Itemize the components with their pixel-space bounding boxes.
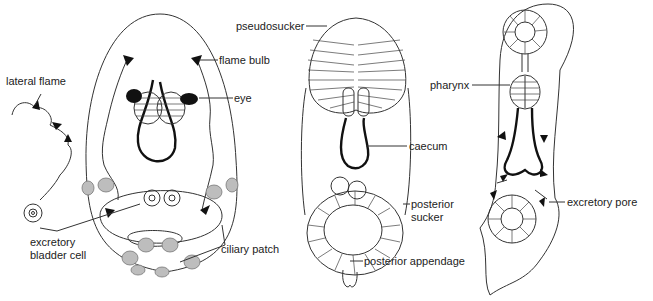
label-posterior-appendage: posterior appendage	[364, 255, 465, 267]
label-excretory-pore: excretory pore	[567, 196, 637, 208]
label-eye: eye	[234, 92, 252, 104]
label-posterior-sucker-1: posterior	[411, 198, 454, 210]
eye-left	[126, 89, 142, 103]
label-posterior-sucker-2: sucker	[411, 211, 443, 223]
label-excretory-bladder-cell-1: excretory	[30, 236, 75, 248]
diagram-drawing	[0, 0, 653, 301]
label-lateral-flame: lateral flame	[6, 75, 66, 87]
middle-larva	[301, 18, 410, 287]
label-flame-bulb: flame bulb	[219, 54, 270, 66]
label-pharynx: pharynx	[430, 79, 469, 91]
right-larva	[472, 4, 574, 295]
label-caecum: caecum	[409, 140, 448, 152]
label-pseudosucker: pseudosucker	[236, 20, 305, 32]
label-ciliary-patch: ciliary patch	[221, 243, 279, 255]
larval-anatomy-figure: lateral flame flame bulb eye excretory b…	[0, 0, 653, 301]
eye-right	[180, 93, 198, 105]
label-excretory-bladder-cell-2: bladder cell	[30, 249, 86, 261]
